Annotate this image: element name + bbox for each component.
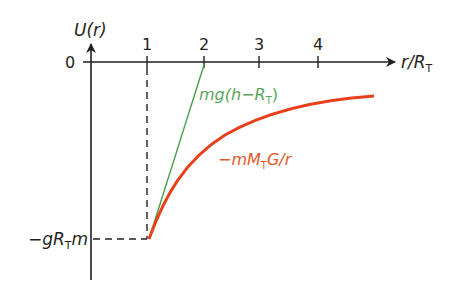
potential-energy-diagram: U(r) 0 1 2 3 4 r/RT −gRTm mg(h−RT) −mMTG… [0, 0, 462, 293]
origin-label: 0 [65, 53, 75, 72]
green-line-label: mg(h−RT) [199, 85, 278, 106]
x-tick-label-4: 4 [313, 35, 323, 54]
green-linear-approximation [149, 65, 204, 239]
x-axis-label: r/RT [401, 52, 433, 75]
x-tick-label-1: 1 [142, 35, 152, 54]
x-tick-label-2: 2 [199, 35, 209, 54]
x-tick-label-3: 3 [254, 35, 264, 54]
y-axis-label: U(r) [74, 20, 107, 40]
red-curve-label: −mMTG/r [218, 150, 293, 171]
y-min-label: −gRTm [28, 229, 88, 252]
